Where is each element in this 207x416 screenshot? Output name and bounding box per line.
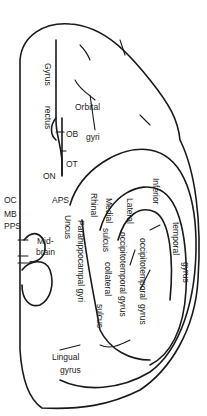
- label-lingual-gyrus: gyrus: [60, 366, 81, 375]
- label-ot: OT: [66, 160, 78, 169]
- label-gyrus-lateral-ot: gyrus: [139, 304, 148, 325]
- label-parahippocampal: Parahippocampal gyri: [77, 220, 86, 302]
- label-sulcus: sulcus: [102, 228, 111, 252]
- label-collateral-sulcus: sulcus: [96, 304, 105, 328]
- label-gyrus-medial-ot: gyrus: [119, 296, 128, 317]
- label-aps: APS: [52, 196, 69, 205]
- label-mb: MB: [4, 210, 17, 219]
- label-rhinal: Rhinal: [90, 193, 99, 217]
- label-oc: OC: [4, 196, 17, 205]
- label-occipitotemporal-lateral: occipitotemporal: [139, 238, 148, 300]
- label-occipitotemporal-medial: occipitotemporal: [119, 232, 128, 294]
- label-lingual: Lingual: [52, 353, 79, 362]
- label-gyri: gyri: [86, 133, 100, 142]
- label-on: ON: [43, 172, 56, 181]
- label-uncus: Uncus: [64, 215, 73, 239]
- label-medial: Medial: [105, 198, 114, 223]
- label-gyrus-inferior-temporal: gyrus: [182, 262, 191, 283]
- label-collateral: collateral: [104, 262, 113, 296]
- label-rectus: rectus: [44, 106, 53, 129]
- label-mid: Mid-: [37, 237, 54, 246]
- label-brain: brain: [36, 248, 55, 257]
- label-orbital: Orbital: [75, 103, 100, 112]
- label-ob: OB: [66, 130, 78, 139]
- label-inferior: Inferior: [152, 178, 161, 204]
- label-gyrus: Gyrus: [44, 63, 53, 86]
- label-temporal: temporal: [172, 222, 181, 255]
- label-lateral: Lateral: [126, 198, 135, 224]
- label-pps: PPS: [4, 222, 21, 231]
